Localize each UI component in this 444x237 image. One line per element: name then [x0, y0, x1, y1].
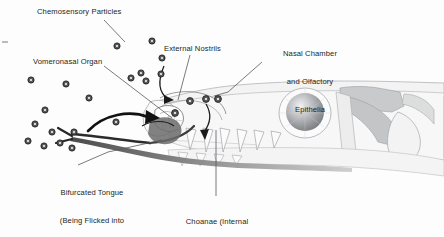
label-bifurcated-tongue: Bifurcated Tongue (Being Flicked into Vo…	[17, 169, 167, 237]
chemosensory-particle-highlight	[65, 83, 67, 85]
label-vomeronasal-organ: Vomeronasal Organ	[33, 57, 102, 66]
chemosensory-particle-highlight	[160, 73, 162, 75]
label-nasal-chamber-line2: and Olfactory	[258, 77, 362, 86]
chemosensory-particle-highlight	[59, 142, 61, 144]
chemosensory-particle-highlight	[145, 80, 147, 82]
figure-canvas: Chemosensory Particles Vomeronasal Organ…	[0, 0, 444, 237]
chemosensory-particle-highlight	[71, 147, 73, 149]
chemosensory-particle-highlight	[189, 100, 191, 102]
chemosensory-particle-highlight	[116, 45, 118, 47]
chemosensory-particle-highlight	[88, 97, 90, 99]
label-nasal-chamber-line1: Nasal Chamber	[258, 49, 362, 58]
chemosensory-particle-highlight	[51, 131, 53, 133]
chemosensory-particle-highlight	[115, 121, 117, 123]
chemosensory-particle-highlight	[30, 79, 32, 81]
chemosensory-particle-highlight	[43, 145, 45, 147]
label-external-nostrils: External Nostrils	[164, 44, 221, 53]
chemosensory-particle-highlight	[161, 57, 163, 59]
chemosensory-particle-highlight	[151, 40, 153, 42]
chemosensory-particle-highlight	[140, 72, 142, 74]
chemosensory-particle-highlight	[217, 98, 219, 100]
chemosensory-particle-highlight	[44, 109, 46, 111]
label-chemosensory-particles: Chemosensory Particles	[37, 7, 122, 16]
label-bifurcated-tongue-line1: Bifurcated Tongue	[17, 188, 167, 197]
label-choanae-line1: Choanae (Internal	[164, 217, 270, 226]
label-choanae: Choanae (Internal Nostrils)	[164, 198, 270, 237]
label-nasal-chamber: Nasal Chamber and Olfactory Epithelia	[258, 30, 362, 133]
label-bifurcated-tongue-line2: (Being Flicked into	[17, 216, 167, 225]
leader-chemosensory-particles	[104, 20, 125, 42]
chemosensory-particle-highlight	[174, 112, 176, 114]
chemosensory-particle-highlight	[130, 77, 132, 79]
chemosensory-particle-highlight	[27, 140, 29, 142]
chemosensory-particle-highlight	[205, 98, 207, 100]
label-nasal-chamber-line3: Epithelia	[258, 105, 362, 114]
chemosensory-particle-highlight	[73, 131, 75, 133]
chemosensory-particle-highlight	[34, 123, 36, 125]
